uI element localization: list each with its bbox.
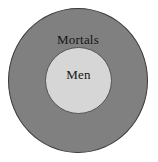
- inner-set-circle-men[interactable]: Men: [45, 47, 112, 114]
- outer-set-label: Mortals: [9, 33, 147, 46]
- inner-set-label: Men: [46, 68, 111, 81]
- outer-set-circle-mortals[interactable]: Mortals Men: [8, 8, 148, 153]
- euler-diagram: Mortals Men: [0, 0, 158, 162]
